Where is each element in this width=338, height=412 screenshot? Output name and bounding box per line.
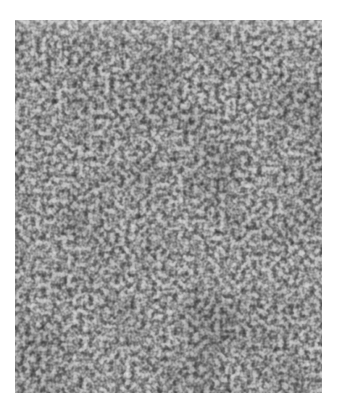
solar-granulation-photo <box>15 20 322 393</box>
top-edge-fade <box>15 20 322 393</box>
image-description: Solar granulation photograph (grayscale) <box>0 0 1 1</box>
granulation-texture <box>15 20 322 393</box>
